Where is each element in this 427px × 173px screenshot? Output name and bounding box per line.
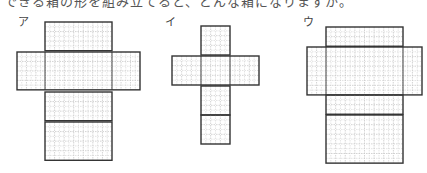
- net-figure-u: [307, 27, 422, 163]
- net-figure-a: [17, 22, 140, 160]
- net-figure-i: [172, 26, 259, 144]
- box-nets-diagram: [0, 0, 427, 173]
